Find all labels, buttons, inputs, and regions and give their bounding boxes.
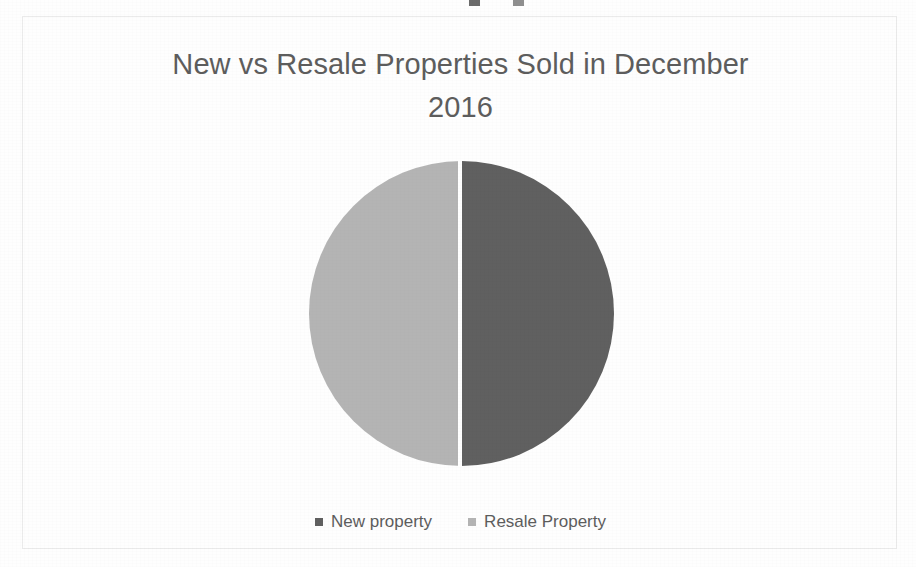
pie-slice-resale-property[interactable] bbox=[309, 161, 462, 466]
legend-label-1: New property bbox=[331, 512, 432, 532]
legend-swatch-icon-1 bbox=[315, 518, 323, 526]
chart-frame: New vs Resale Properties Sold in Decembe… bbox=[22, 16, 897, 549]
chart-title: New vs Resale Properties Sold in Decembe… bbox=[23, 43, 898, 129]
legend-label-2: Resale Property bbox=[484, 512, 606, 532]
pie-chart[interactable] bbox=[309, 161, 614, 466]
pie-slice-divider bbox=[458, 160, 462, 467]
cut-off-legend-strip bbox=[0, 0, 916, 7]
cut-off-legend-marker-1 bbox=[469, 0, 480, 6]
legend-entry-1[interactable]: New property bbox=[315, 512, 432, 532]
pie-slice-new-property[interactable] bbox=[462, 161, 615, 466]
cut-off-legend-marker-2 bbox=[513, 0, 524, 6]
chart-legend: New propertyResale Property bbox=[23, 512, 898, 532]
legend-swatch-icon-2 bbox=[468, 518, 476, 526]
legend-entry-2[interactable]: Resale Property bbox=[468, 512, 606, 532]
